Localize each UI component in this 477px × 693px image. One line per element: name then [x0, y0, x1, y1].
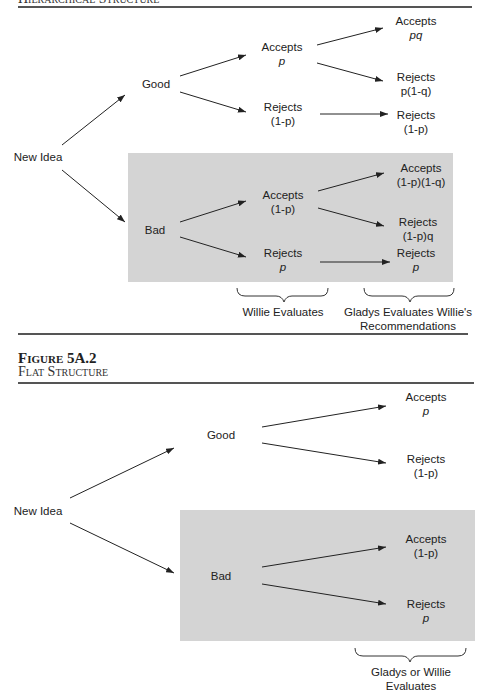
willie-brace: [237, 288, 328, 302]
figure2-title: Flat Structure: [18, 364, 108, 380]
fig1-bad-accepts-rejects-node: Rejects (1-p)q: [399, 215, 437, 243]
willie-evaluates-label: Willie Evaluates: [242, 305, 323, 319]
gladys-or-willie-label: Gladys or Willie Evaluates: [371, 665, 451, 693]
fig1-bad-node: Bad: [145, 223, 165, 237]
fig2-bad-accepts-node: Accepts (1-p): [406, 532, 447, 560]
fig2-root-node: New Idea: [14, 504, 63, 518]
gladys-evaluates-label: Gladys Evaluates Willie's Recommendation…: [344, 305, 472, 333]
fig1-good-accepts-rejects-node: Rejects p(1-q): [397, 70, 435, 98]
fig1-bad-accepts-accepts-node: Accepts (1-p)(1-q): [397, 161, 446, 189]
gladys-brace: [364, 288, 454, 302]
fig1-root-node: New Idea: [14, 150, 63, 164]
figure1-bottom-rule: [18, 333, 468, 335]
fig2-good-accepts-node: Accepts p: [406, 390, 447, 418]
flat-evaluator-brace: [355, 648, 466, 662]
figure2-top-rule: [18, 382, 474, 384]
fig1-bad-accepts-node: Accepts (1-p): [263, 188, 304, 216]
fig2-good-rejects-node: Rejects (1-p): [407, 452, 445, 480]
fig1-good-node: Good: [142, 77, 170, 91]
fig2-good-node: Good: [207, 428, 235, 442]
fig2-bad-rejects-node: Rejects p: [407, 597, 445, 625]
fig1-good-rejects-rejects-node: Rejects (1-p): [397, 108, 435, 136]
fig2-bad-node: Bad: [211, 569, 231, 583]
fig1-bad-rejects-node: Rejects p: [264, 246, 302, 274]
tree-arrows: [0, 0, 477, 693]
fig1-good-accepts-accepts-node: Accepts pq: [396, 14, 437, 42]
fig1-good-accepts-node: Accepts p: [262, 40, 303, 68]
fig1-bad-rejects-rejects-node: Rejects p: [397, 246, 435, 274]
fig1-good-rejects-node: Rejects (1-p): [264, 100, 302, 128]
